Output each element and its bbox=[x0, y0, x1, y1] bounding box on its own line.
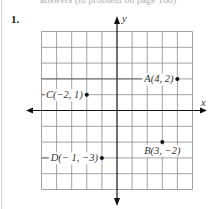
point-marker bbox=[85, 93, 89, 97]
point-label: C(−2, 1) bbox=[46, 89, 83, 101]
coordinate-plane: x y A(4, 2)B(3, −2)C(−2, 1)D(− 1, −3) bbox=[0, 0, 214, 209]
arrow-right-icon bbox=[200, 108, 207, 114]
point-marker bbox=[160, 140, 164, 144]
plotted-points: A(4, 2)B(3, −2)C(−2, 1)D(− 1, −3) bbox=[42, 73, 182, 164]
arrow-up-icon bbox=[114, 16, 120, 24]
point-label: D(− 1, −3) bbox=[50, 152, 99, 164]
point-b: B(3, −2) bbox=[143, 140, 182, 157]
point-d: D(− 1, −3) bbox=[42, 152, 104, 164]
arrow-left-icon bbox=[26, 108, 33, 114]
arrow-down-icon bbox=[114, 198, 120, 206]
point-marker bbox=[100, 156, 104, 160]
point-a: A(4, 2) bbox=[42, 73, 180, 85]
point-marker bbox=[175, 77, 179, 81]
point-label: A(4, 2) bbox=[143, 73, 174, 85]
y-axis-label: y bbox=[121, 13, 127, 24]
axes bbox=[26, 16, 207, 206]
point-c: C(−2, 1) bbox=[42, 89, 89, 101]
x-axis-label: x bbox=[200, 97, 206, 108]
point-label: B(3, −2) bbox=[144, 145, 181, 157]
